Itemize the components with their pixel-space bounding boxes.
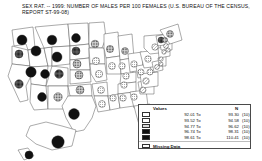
legend-swatch-4 [142, 129, 150, 134]
state-symbol-ct[interactable] [162, 50, 166, 54]
state-symbol-co[interactable] [55, 70, 64, 79]
legend-header: Values N [139, 105, 250, 112]
legend-swatch-1 [142, 112, 150, 117]
state-symbol-ma[interactable] [164, 44, 169, 49]
legend-low-value: 92.01 [161, 112, 195, 117]
legend-high-value: 98.31 [205, 129, 239, 134]
state-symbol-ar[interactable] [98, 87, 105, 94]
state-symbol-ia[interactable] [92, 57, 99, 64]
legend-count: (10) [242, 129, 250, 134]
legend-n-header: N [235, 106, 238, 111]
state-symbol-nd[interactable] [72, 34, 81, 43]
legend-to-word: To [196, 129, 201, 134]
state-symbol-ri[interactable] [166, 48, 170, 52]
state-symbol-me[interactable] [167, 31, 174, 38]
legend-count: (10) [242, 118, 250, 123]
state-symbol-wa[interactable] [17, 35, 27, 45]
legend-swatch-missing [142, 144, 150, 149]
legend-count: (10) [242, 124, 250, 129]
legend-count: (10) [242, 135, 250, 140]
map-figure: SEX RAT. -- 1999: NUMBER OF MALES PER 10… [0, 0, 262, 161]
state-symbol-nm[interactable] [54, 93, 62, 101]
state-symbol-ok[interactable] [76, 86, 84, 94]
state-symbol-nh[interactable] [162, 37, 167, 42]
legend-low-value: 98.61 [161, 135, 195, 140]
legend-high-value: 94.58 [205, 118, 239, 123]
state-symbol-al[interactable] [120, 95, 126, 101]
legend-missing-row: Missing Data [139, 141, 250, 149]
state-symbol-tn[interactable] [121, 82, 127, 88]
state-symbol-hi[interactable] [25, 151, 33, 159]
state-symbol-ga[interactable] [131, 94, 137, 100]
state-symbol-wv[interactable] [138, 69, 144, 75]
state-symbol-ak[interactable] [52, 136, 64, 148]
legend: Values N 92.01To93.30(10)93.52To94.58(10… [138, 104, 251, 149]
legend-row[interactable]: 98.61To110.41(10) [139, 135, 250, 141]
state-symbol-ny[interactable] [152, 44, 158, 50]
state-symbol-nj[interactable] [159, 57, 163, 61]
state-symbol-sd[interactable] [72, 47, 80, 55]
state-symbol-mi[interactable] [122, 48, 129, 55]
state-symbol-ne[interactable] [73, 60, 81, 68]
state-symbol-de[interactable] [159, 62, 163, 66]
state-symbol-ms[interactable] [110, 95, 116, 101]
legend-low-value: 96.74 [161, 129, 195, 134]
legend-to-word: To [196, 118, 201, 123]
state-symbol-tx[interactable] [69, 109, 80, 120]
state-symbol-mo[interactable] [95, 70, 102, 77]
legend-swatch-3 [142, 124, 150, 129]
state-symbol-ut[interactable] [41, 70, 50, 79]
state-symbol-ks[interactable] [75, 71, 83, 79]
legend-values-header: Values [153, 106, 167, 111]
state-symbol-ky[interactable] [123, 73, 129, 79]
legend-class-rows: 92.01To93.30(10)93.52To94.58(10)94.77To9… [139, 112, 250, 140]
state-symbol-nc[interactable] [143, 78, 149, 84]
legend-low-value: 94.77 [161, 124, 195, 129]
legend-low-value: 93.52 [161, 118, 195, 123]
state-symbol-or[interactable] [15, 50, 23, 58]
state-symbol-wi[interactable] [106, 45, 113, 52]
state-symbol-mn[interactable] [91, 40, 99, 48]
legend-missing-label: Missing Data [153, 144, 180, 149]
state-symbol-az[interactable] [38, 93, 47, 102]
legend-high-value: 96.62 [205, 124, 239, 129]
state-symbol-id[interactable] [31, 46, 41, 56]
legend-count: (10) [242, 112, 250, 117]
legend-swatch-5 [142, 135, 150, 140]
state-symbol-sc[interactable] [140, 87, 146, 93]
legend-to-word: To [196, 135, 201, 140]
state-symbol-pa[interactable] [145, 56, 151, 62]
state-symbol-la[interactable] [99, 101, 106, 108]
state-symbol-mt[interactable] [47, 35, 57, 45]
state-symbol-oh[interactable] [131, 61, 137, 67]
state-symbol-il[interactable] [109, 63, 116, 70]
state-symbol-wy[interactable] [52, 52, 62, 62]
legend-to-word: To [196, 124, 201, 129]
state-symbol-nv[interactable] [26, 67, 36, 77]
legend-high-value: 93.30 [205, 112, 239, 117]
legend-high-value: 110.41 [205, 135, 239, 140]
state-symbol-va[interactable] [147, 69, 153, 75]
state-symbol-in[interactable] [119, 63, 125, 69]
legend-swatch-2 [142, 118, 150, 123]
state-symbol-md[interactable] [155, 65, 160, 70]
legend-to-word: To [196, 112, 201, 117]
state-symbol-ca[interactable] [15, 80, 23, 88]
